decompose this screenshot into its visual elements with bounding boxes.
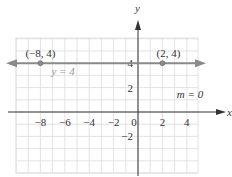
x-tick-label: −2	[108, 116, 120, 128]
data-point	[160, 61, 165, 66]
line-arrow-left	[6, 59, 17, 67]
x-tick-label: 4	[184, 116, 190, 128]
slope-label: m = 0	[177, 88, 204, 100]
x-axis-arrow	[216, 109, 226, 115]
x-tick-label: 0	[131, 116, 137, 128]
x-tick-label: −4	[83, 116, 95, 128]
x-tick-label: 2	[160, 116, 166, 128]
line-arrow-right	[195, 59, 206, 67]
series	[6, 59, 206, 67]
y-tick-label: −2	[121, 130, 133, 142]
point-label: (2, 4)	[156, 47, 180, 60]
point-label: (−8, 4)	[25, 47, 55, 60]
y-axis-arrow	[135, 20, 141, 30]
equation-label: y = 4	[50, 65, 75, 77]
chart: −8−6−4−202442−2 x y y = 4 m = 0 (−8, 4) …	[0, 0, 232, 177]
x-tick-label: −6	[59, 116, 71, 128]
x-tick-label: −8	[35, 116, 47, 128]
data-point	[38, 61, 43, 66]
y-axis-label: y	[134, 2, 140, 14]
y-tick-label: 2	[128, 82, 134, 94]
x-axis-label: x	[226, 106, 232, 118]
